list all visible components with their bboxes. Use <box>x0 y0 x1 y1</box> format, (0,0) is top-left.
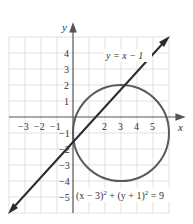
x-tick: −3 <box>18 121 29 132</box>
line-equation-label: y = x − 1 <box>105 50 143 61</box>
x-axis-label: x <box>177 121 183 133</box>
x-axis-arrow-icon <box>176 114 184 120</box>
coordinate-plane: y x −3 −2 −1 2 3 4 5 4 3 2 1 −1 −2 −3 −4… <box>0 0 193 224</box>
y-tick: 2 <box>64 80 69 91</box>
graph-figure: y x −3 −2 −1 2 3 4 5 4 3 2 1 −1 −2 −3 −4… <box>0 0 193 224</box>
x-tick: 4 <box>134 121 139 132</box>
y-tick: −3 <box>59 160 70 171</box>
y-tick: −1 <box>59 128 70 139</box>
y-tick: 1 <box>64 96 69 107</box>
x-tick: −2 <box>34 121 45 132</box>
circle-equation-label: (x − 3)2 + (y + 1)2 = 9 <box>76 189 164 202</box>
y-tick: −4 <box>59 176 70 187</box>
y-tick: 3 <box>64 64 69 75</box>
x-tick: 2 <box>102 121 107 132</box>
x-tick: 5 <box>150 121 155 132</box>
y-axis-label: y <box>61 21 67 33</box>
x-tick: 3 <box>118 121 123 132</box>
y-tick: −2 <box>59 144 70 155</box>
y-axis-arrow-icon <box>70 24 76 32</box>
y-tick: −5 <box>59 192 70 203</box>
y-tick: 4 <box>64 48 69 59</box>
